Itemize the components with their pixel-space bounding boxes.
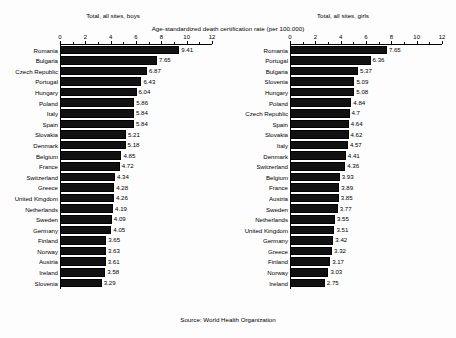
- x-tick-mark: [315, 41, 316, 44]
- bar-rect: [290, 109, 350, 118]
- bar-category-label: Slovenia: [35, 279, 58, 288]
- bar-value-label: 3.55: [337, 215, 349, 223]
- bar-value-label: 5.37: [360, 67, 372, 75]
- x-tick-mark: [341, 41, 342, 44]
- bar-track: [60, 183, 212, 192]
- bar-row: Austria3.85: [232, 193, 454, 204]
- bar-category-label: Sweden: [36, 215, 58, 224]
- bar-value-label: 6.04: [139, 88, 151, 96]
- x-tick-label: 10: [183, 34, 190, 40]
- bar-value-label: 5.21: [128, 131, 140, 139]
- x-tick-label: 12: [439, 34, 446, 40]
- x-tick-mark: [161, 41, 162, 44]
- bar-row: Czech Republic6.87: [2, 66, 224, 77]
- bar-value-label: 3.29: [104, 279, 116, 287]
- bar-track: [60, 204, 212, 213]
- bar-rect: [290, 120, 349, 129]
- x-tick-mark: [442, 41, 443, 44]
- bar-row: France4.72: [2, 162, 224, 173]
- bar-category-label: Denmark: [263, 152, 288, 161]
- bar-row: Ireland3.58: [2, 267, 224, 278]
- plot-area-girls: 024681012 Romania7.65Portugal6.36Bulgari…: [232, 34, 454, 296]
- bar-rect: [60, 88, 137, 97]
- bar-rect: [60, 247, 106, 256]
- bar-category-label: Hungary: [35, 88, 58, 97]
- x-tick-mark: [60, 41, 61, 44]
- bar-rect: [60, 236, 106, 245]
- bar-row: Germany4.05: [2, 225, 224, 236]
- bar-track: [60, 151, 212, 160]
- bar-rect: [60, 98, 134, 107]
- x-tick-mark: [379, 42, 380, 44]
- bar-row: Ireland2.75: [232, 278, 454, 289]
- bar-track: [290, 56, 442, 65]
- bar-value-label: 4.72: [122, 162, 134, 170]
- x-tick-label: 2: [84, 34, 87, 40]
- bar-rect: [60, 77, 141, 86]
- bar-value-label: 4.36: [347, 162, 359, 170]
- bar-value-label: 3.32: [334, 247, 346, 255]
- bar-track: [290, 204, 442, 213]
- bar-value-label: 4.26: [116, 194, 128, 202]
- bar-rect: [290, 173, 340, 182]
- bar-track: [290, 247, 442, 256]
- chart-panel-girls: Total, all sites, girls 024681012 Romani…: [232, 10, 454, 300]
- bar-row: Netherlands4.19: [2, 204, 224, 215]
- bar-category-label: United Kingdom: [15, 194, 58, 203]
- x-tick-mark: [98, 42, 99, 44]
- x-tick-label: 10: [413, 34, 420, 40]
- bar-track: [60, 88, 212, 97]
- bar-value-label: 3.77: [340, 205, 352, 213]
- bar-rect: [290, 88, 354, 97]
- bar-row: Hungary5.08: [232, 87, 454, 98]
- bar-category-label: France: [39, 162, 58, 171]
- bar-track: [290, 236, 442, 245]
- bar-rect: [290, 98, 351, 107]
- bar-category-label: Netherlands: [25, 205, 58, 214]
- bar-row: Germany3.42: [232, 236, 454, 247]
- bar-value-label: 4.85: [123, 152, 135, 160]
- bar-value-label: 4.41: [348, 152, 360, 160]
- bar-row: Finland3.17: [232, 257, 454, 268]
- bar-value-label: 5.08: [356, 88, 368, 96]
- bar-rect: [290, 67, 358, 76]
- bar-rect: [290, 151, 346, 160]
- bar-row: Bulgaria7.65: [2, 56, 224, 67]
- bar-row: Portugal6.43: [2, 77, 224, 88]
- bar-row: Netherlands3.55: [232, 215, 454, 226]
- bar-track: [60, 279, 212, 288]
- x-tick-mark: [391, 41, 392, 44]
- bar-track: [290, 194, 442, 203]
- bar-value-label: 3.63: [108, 247, 120, 255]
- bar-value-label: 9.41: [181, 46, 193, 54]
- bar-row: Greece4.28: [2, 183, 224, 194]
- bar-category-label: Switzerland: [27, 173, 59, 182]
- bar-row: France3.89: [232, 183, 454, 194]
- bar-row: Austria3.61: [2, 257, 224, 268]
- bar-row: Sweden3.77: [232, 204, 454, 215]
- bar-value-label: 3.89: [341, 184, 353, 192]
- bar-rect: [60, 109, 134, 118]
- x-tick-mark: [85, 41, 86, 44]
- bar-value-label: 3.58: [107, 268, 119, 276]
- bar-list-girls: Romania7.65Portugal6.36Bulgaria5.37Slove…: [232, 45, 454, 289]
- x-tick-mark: [174, 42, 175, 44]
- chart-page: Age-standardized death certification rat…: [0, 0, 456, 338]
- bar-category-label: Portugal: [265, 56, 288, 65]
- bar-value-label: 7.65: [389, 46, 401, 54]
- bar-value-label: 5.09: [356, 78, 368, 86]
- bar-category-label: United Kingdom: [245, 226, 288, 235]
- bar-track: [290, 173, 442, 182]
- bar-row: Italy4.57: [232, 140, 454, 151]
- bar-track: [60, 236, 212, 245]
- bar-value-label: 3.17: [332, 258, 344, 266]
- bar-category-label: Poland: [39, 99, 58, 108]
- x-tick-label: 0: [58, 34, 61, 40]
- bar-value-label: 4.62: [351, 131, 363, 139]
- bar-track: [290, 141, 442, 150]
- bar-rect: [60, 194, 114, 203]
- x-tick-mark: [353, 42, 354, 44]
- bar-category-label: Poland: [269, 99, 288, 108]
- bar-row: Poland4.84: [232, 98, 454, 109]
- bar-rect: [60, 279, 102, 288]
